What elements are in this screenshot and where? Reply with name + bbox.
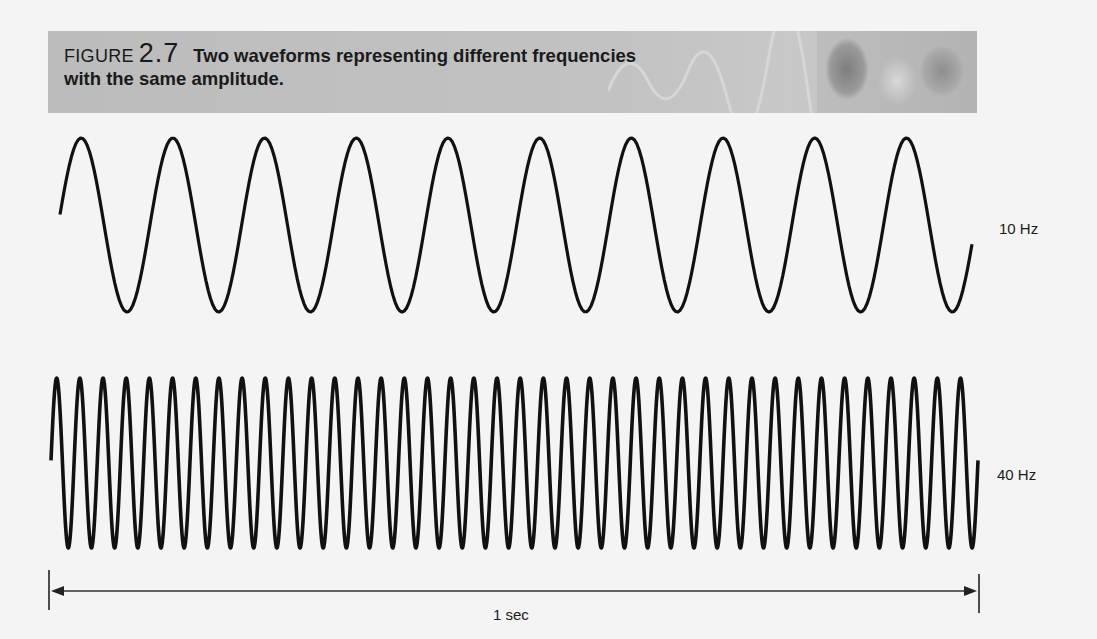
- waveform-plot: [0, 0, 1097, 639]
- label-10hz: 10 Hz: [999, 220, 1038, 237]
- arrow-left-icon: [51, 586, 64, 596]
- time-axis-label: 1 sec: [493, 606, 529, 623]
- label-40hz: 40 Hz: [997, 466, 1036, 483]
- wave-40hz: [51, 378, 978, 548]
- wave-10hz: [60, 138, 972, 312]
- arrow-right-icon: [964, 586, 977, 596]
